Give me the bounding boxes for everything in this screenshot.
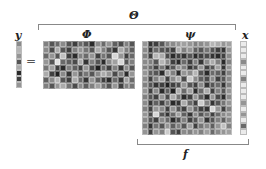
psi-matrix xyxy=(142,41,232,135)
matrix-cell xyxy=(226,129,232,135)
phi-label: Φ xyxy=(82,29,92,40)
matrix-cell xyxy=(240,129,247,135)
y-label: y xyxy=(15,30,21,41)
psi-label: ψ xyxy=(185,29,195,40)
f-bracket xyxy=(137,139,249,145)
equals-sign: = xyxy=(26,54,36,68)
y-vector xyxy=(16,41,22,88)
theta-bracket xyxy=(38,24,236,30)
matrix-cell xyxy=(129,83,135,89)
x-label: x xyxy=(242,30,249,41)
phi-matrix xyxy=(43,41,135,89)
x-vector xyxy=(240,41,247,135)
f-label: f xyxy=(183,149,188,160)
matrix-cell xyxy=(16,82,22,88)
theta-label: Θ xyxy=(129,10,139,21)
